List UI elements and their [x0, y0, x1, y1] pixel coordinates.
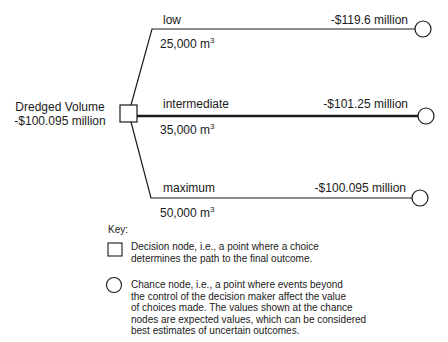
branch-low-name: low: [163, 13, 181, 27]
chance-node-maximum: [412, 190, 428, 206]
branch-intermediate-name: intermediate: [163, 97, 229, 111]
branch-low-volume: 25,000 m3: [160, 37, 215, 51]
volume-text: 50,000 m: [160, 206, 210, 220]
root-title: Dredged Volume: [4, 100, 116, 114]
volume-exponent: 3: [210, 122, 214, 131]
branch-low-value: -$119.6 million: [316, 13, 408, 27]
key-line: best estimates of uncertain outcomes.: [131, 325, 431, 337]
branch-maximum-name: maximum: [163, 181, 215, 195]
volume-text: 25,000 m: [160, 37, 210, 51]
root-node-label: Dredged Volume -$100.095 million: [4, 100, 116, 128]
chance-node-intermediate: [418, 108, 434, 124]
key-line: Decision node, i.e., a point where a cho…: [131, 241, 431, 253]
chance-node-low: [415, 21, 431, 37]
decision-node: [120, 105, 137, 122]
key-line: determines the path to the final outcome…: [131, 253, 431, 265]
branch-intermediate-value: -$101.25 million: [296, 97, 408, 111]
key-chance-description: Chance node, i.e., a point where events …: [131, 279, 431, 337]
key-decision-square-icon: [108, 243, 122, 256]
volume-exponent: 3: [210, 205, 214, 214]
key-decision-description: Decision node, i.e., a point where a cho…: [131, 241, 431, 264]
key-line: Chance node, i.e., a point where events …: [131, 279, 431, 291]
volume-exponent: 3: [210, 36, 214, 45]
root-value: -$100.095 million: [4, 114, 116, 128]
branch-maximum-volume: 50,000 m3: [160, 206, 215, 220]
key-line: of choices made. The values shown at the…: [131, 302, 431, 314]
branch-maximum-value: -$100.095 million: [286, 181, 406, 195]
key-chance-circle-icon: [107, 278, 122, 293]
volume-text: 35,000 m: [160, 123, 210, 137]
key-title: Key:: [108, 224, 128, 235]
key-line: the control of the decision maker affect…: [131, 291, 431, 303]
branch-intermediate-volume: 35,000 m3: [160, 123, 215, 137]
key-line: nodes are expected values, which can be …: [131, 314, 431, 326]
